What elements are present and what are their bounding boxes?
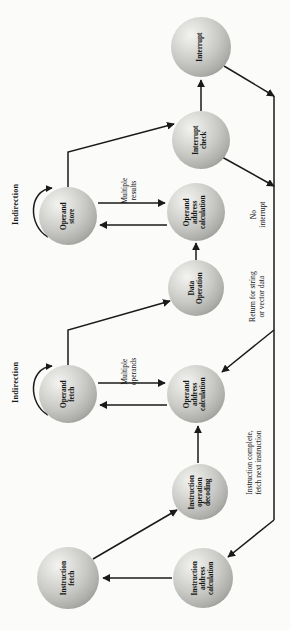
node-instruction-fetch[interactable]: Instructionfetch [37,547,99,609]
diagram-edges-layer [0,0,290,630]
edge-label-return-for-string: Return for stringor vector data [249,255,266,339]
node-label: Operandstore [60,202,76,230]
node-label: Operandaddresscalculation [184,377,209,410]
node-instruction-address-calculation[interactable]: Instructionaddresscalculation [173,548,233,608]
node-data-operation[interactable]: DataOperation [168,260,224,316]
node-label: Interruptcheck [193,125,209,154]
edge-label-indirection-store: Indirection [12,176,21,232]
node-interrupt[interactable]: Interrupt [171,17,231,77]
edge-interrupt-check-to-rail [222,157,274,186]
node-label: Instructionfetch [60,561,76,595]
instruction-cycle-state-diagram: Interrupt Interruptcheck Operandstore Op… [0,0,290,630]
node-label: Operandaddresscalculation [184,195,209,228]
edge-ofetch-to-data-operation [68,301,170,365]
node-label: Instructionoperationdecoding [188,475,213,509]
edge-label-multiple-results: Multipleresults [121,167,138,215]
node-label: DataOperation [188,272,204,304]
node-interrupt-check[interactable]: Interruptcheck [172,111,230,169]
edge-label-multiple-operands: Multipleoperands [121,346,138,398]
edge-label-instruction-complete: Instruction complete,fetch next instruct… [246,411,263,515]
edge-rail-to-iac [228,520,274,557]
node-label: Interrupt [197,32,205,61]
node-operand-address-calculation-lower[interactable]: Operandaddresscalculation [167,365,225,423]
edge-ifetch-to-decode [93,510,177,559]
edge-label-indirection-fetch: Indirection [12,354,21,410]
node-operand-store[interactable]: Operandstore [39,187,97,245]
edge-label-no-interrupt: Nointerrupt [250,192,267,238]
node-label: Instructionaddresscalculation [191,561,216,595]
node-operand-fetch[interactable]: Operandfetch [39,365,97,423]
node-instruction-operation-decoding[interactable]: Instructionoperationdecoding [172,464,228,520]
edge-interrupt-to-rail [224,66,274,96]
node-label: Operandfetch [60,380,76,408]
node-operand-address-calculation-upper[interactable]: Operandaddresscalculation [167,183,225,241]
